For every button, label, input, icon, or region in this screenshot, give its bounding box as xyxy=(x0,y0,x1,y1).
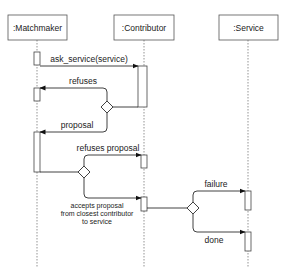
message-label-failure: failure xyxy=(204,179,227,189)
activation-matchmaker-2 xyxy=(34,88,40,101)
svg-text:to service: to service xyxy=(82,218,112,225)
message-label: ask_service(service) xyxy=(50,54,128,64)
activation-contributor-1 xyxy=(138,66,147,107)
activation-contributor-3 xyxy=(141,197,147,211)
participant-service: :Service xyxy=(219,15,278,40)
message-label-refuses: refuses xyxy=(69,76,97,86)
svg-text:from closest contributor: from closest contributor xyxy=(61,210,134,217)
decision-2-branches xyxy=(40,155,141,198)
activation-service-2 xyxy=(245,232,251,251)
participant-contributor: :Contributor xyxy=(114,15,174,40)
activation-matchmaker-3 xyxy=(34,132,40,172)
sequence-diagram: :Matchmaker :Contributor :Service ask_se… xyxy=(0,0,288,279)
message-ask-service: ask_service(service) xyxy=(40,54,138,66)
activation-service-1 xyxy=(245,191,251,210)
decision-diamond-2 xyxy=(78,166,90,178)
participant-label: :Contributor xyxy=(122,23,167,33)
message-label-proposal: proposal xyxy=(61,120,94,130)
activation-matchmaker-1 xyxy=(34,52,40,65)
message-label-accepts-proposal: accepts proposal from closest contributo… xyxy=(61,202,134,225)
participant-label: :Matchmaker xyxy=(13,23,62,33)
message-label-refuses-proposal: refuses proposal xyxy=(77,143,140,153)
participant-matchmaker: :Matchmaker xyxy=(8,15,67,40)
svg-text:accepts proposal: accepts proposal xyxy=(71,202,124,210)
activations xyxy=(34,52,251,251)
participant-label: :Service xyxy=(233,23,264,33)
message-label-done: done xyxy=(205,235,224,245)
activation-contributor-2 xyxy=(141,155,147,168)
decision-diamond-3 xyxy=(187,202,199,214)
decision-diamond-1 xyxy=(101,101,113,113)
